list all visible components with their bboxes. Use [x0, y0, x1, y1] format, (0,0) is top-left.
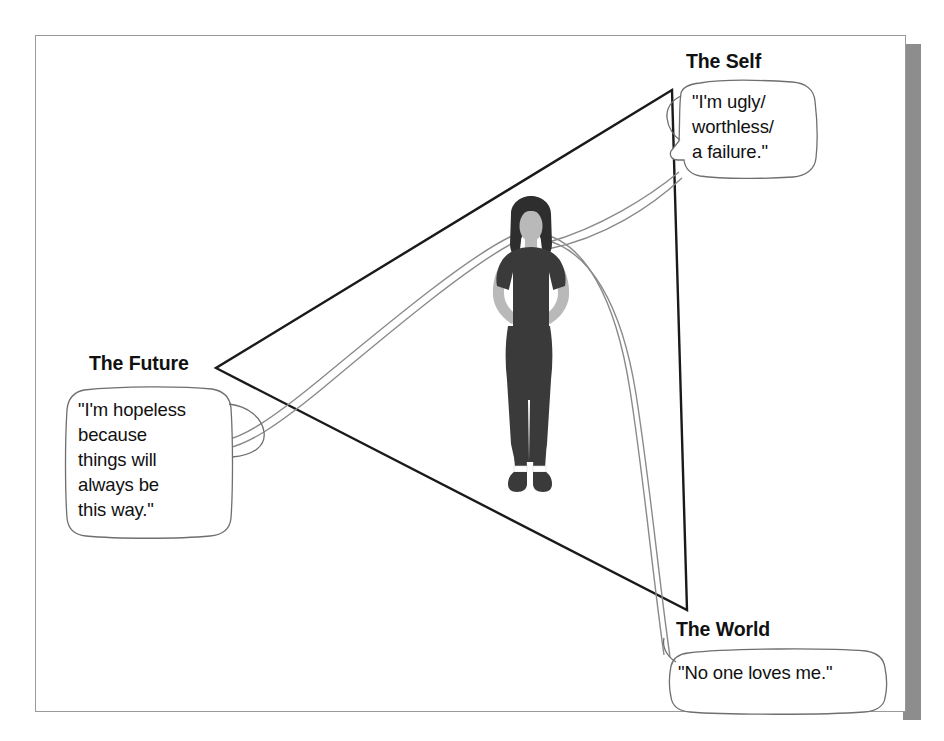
node-label-world: The World [676, 618, 770, 641]
right-shoe [533, 472, 552, 492]
tail-self-a [546, 172, 679, 243]
face [520, 210, 543, 242]
tail-world-a [538, 233, 664, 655]
left-shoe [508, 472, 527, 492]
bubble-future-tail [229, 404, 264, 457]
node-label-future: The Future [89, 352, 189, 375]
left-sock [514, 466, 527, 472]
cognitive-triad-triangle [216, 90, 687, 610]
right-lower-leg [533, 440, 547, 468]
triangle-outline [216, 90, 687, 610]
bubble-quote-self: "I'm ugly/ worthless/ a failure." [692, 89, 822, 164]
diagram-canvas: The Self "I'm ugly/ worthless/ a failure… [0, 0, 944, 741]
bubble-world-tail [664, 638, 677, 662]
tail-self-b [548, 178, 682, 249]
node-label-self: The Self [686, 50, 761, 73]
left-lower-leg [513, 440, 527, 468]
right-sock [533, 466, 546, 472]
bubble-quote-world: "No one loves me." [678, 660, 878, 685]
bubble-tails [226, 172, 682, 657]
bubble-quote-future: "I'm hopeless because things will always… [78, 397, 228, 522]
tail-future-a [226, 235, 514, 440]
